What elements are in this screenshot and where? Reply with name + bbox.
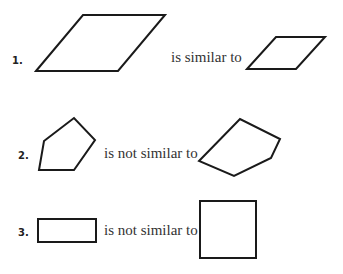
item-3-relation: is not similar to	[104, 222, 198, 239]
square-shape	[200, 201, 256, 258]
rectangle-shape	[38, 219, 96, 242]
item-1-relation: is similar to	[171, 49, 242, 66]
parallelogram-large-shape	[36, 15, 165, 71]
similarity-figure: 1. is similar to 2. is not similar to 3.…	[0, 0, 343, 274]
item-2-relation: is not similar to	[104, 145, 198, 162]
pentagon-shape	[39, 118, 95, 170]
item-2-number: 2.	[18, 150, 29, 161]
item-3-number: 3.	[18, 227, 29, 238]
pentagon-distorted-shape	[199, 119, 280, 176]
parallelogram-small-shape	[247, 37, 325, 69]
item-1-number: 1.	[12, 55, 23, 66]
